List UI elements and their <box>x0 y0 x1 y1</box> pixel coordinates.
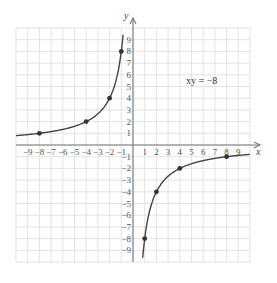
axes <box>16 18 260 262</box>
y-tick-label: −3 <box>121 175 131 185</box>
x-tick-label: −2 <box>105 147 115 157</box>
hyperbola-chart: −9−8−7−6−5−4−3−2−1123456789987654321−1−2… <box>0 0 277 283</box>
x-axis-label: x <box>255 146 261 157</box>
x-tick-label: −6 <box>58 147 68 157</box>
data-point <box>107 96 112 101</box>
equation-label: xy = −8 <box>186 75 217 86</box>
y-axis-label: y <box>123 10 129 21</box>
x-tick-label: 3 <box>166 147 171 157</box>
data-point <box>142 236 147 241</box>
x-tick-label: 2 <box>154 147 159 157</box>
y-tick-label: −9 <box>121 245 131 255</box>
y-tick-label: 2 <box>127 117 132 127</box>
right-branch <box>143 154 250 257</box>
y-tick-label: −8 <box>121 234 131 244</box>
y-tick-label: 7 <box>127 58 132 68</box>
y-tick-label: 1 <box>127 128 132 138</box>
data-point <box>37 131 42 136</box>
x-tick-label: −9 <box>23 147 33 157</box>
y-tick-label: −7 <box>121 222 131 232</box>
x-tick-label: −7 <box>46 147 56 157</box>
x-tick-label: 6 <box>201 147 206 157</box>
y-tick-label: −6 <box>121 210 131 220</box>
x-tick-label: −4 <box>81 147 91 157</box>
y-tick-label: −1 <box>121 152 131 162</box>
y-tick-label: −4 <box>121 187 131 197</box>
left-branch <box>16 35 123 136</box>
y-tick-label: 5 <box>127 82 132 92</box>
data-point <box>84 119 89 124</box>
x-tick-label: −5 <box>70 147 80 157</box>
data-point <box>119 49 124 54</box>
x-tick-label: −8 <box>35 147 45 157</box>
x-tick-label: 7 <box>213 147 218 157</box>
x-tick-label: 1 <box>142 147 147 157</box>
y-tick-label: 6 <box>127 70 132 80</box>
y-tick-label: 3 <box>127 105 132 115</box>
y-tick-label: −2 <box>121 163 131 173</box>
y-tick-label: 8 <box>127 46 132 56</box>
data-point <box>224 154 229 159</box>
x-tick-label: −3 <box>93 147 103 157</box>
y-tick-label: 4 <box>127 93 132 103</box>
y-tick-label: 9 <box>127 35 132 45</box>
data-point <box>154 189 159 194</box>
x-tick-label: 5 <box>189 147 194 157</box>
y-tick-label: −5 <box>121 199 131 209</box>
x-tick-label: 4 <box>178 147 183 157</box>
data-point <box>177 166 182 171</box>
